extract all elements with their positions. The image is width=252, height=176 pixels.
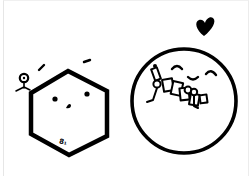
left-closed-eye-icon [172, 66, 182, 69]
right-eye-icon [84, 91, 89, 96]
heart-icon [196, 17, 214, 36]
smile-icon [188, 77, 198, 80]
hexagon-body [31, 71, 107, 155]
right-closed-eye-icon [206, 71, 216, 75]
tangle-of-figures-icon [147, 64, 208, 108]
illustration-canvas [0, 0, 252, 176]
right-brow-dash-icon [84, 60, 90, 62]
left-brow-dash-icon [39, 65, 44, 70]
left-eye-icon [52, 96, 57, 101]
circle-character [132, 17, 236, 153]
hexagon-label: 8₁ [58, 138, 67, 146]
nose-icon [66, 104, 71, 108]
stick-figure-icon [16, 74, 30, 91]
